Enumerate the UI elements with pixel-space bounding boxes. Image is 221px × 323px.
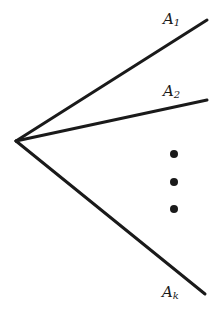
ray-a2: [16, 100, 207, 141]
label-ak: Ak: [160, 283, 179, 301]
rays: [16, 20, 207, 294]
ellipsis-dot: [170, 205, 178, 213]
ellipsis-dots: [170, 150, 178, 213]
ellipsis-dot: [170, 178, 178, 186]
ray-fan-diagram: A1 A2 Ak: [0, 0, 221, 323]
ellipsis-dot: [170, 150, 178, 158]
label-a2: A2: [161, 82, 180, 100]
ray-ak: [16, 141, 205, 294]
label-a1: A1: [161, 10, 180, 28]
ray-a1: [16, 20, 207, 141]
